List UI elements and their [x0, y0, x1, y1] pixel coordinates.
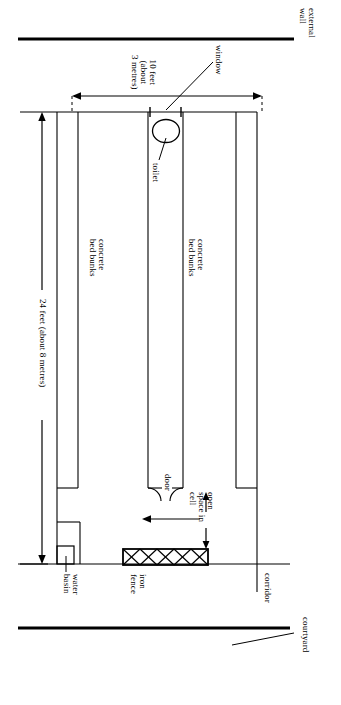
- label-iron-fence: iron fence: [129, 574, 147, 594]
- label-courtyard: courtyard: [301, 617, 310, 652]
- label-toilet: toilet: [151, 163, 160, 182]
- open-space-arrow-down-head: [203, 541, 210, 549]
- label-bed-bunks-right: concrete bed bunks: [187, 239, 205, 277]
- iron-fence-hatch: [123, 549, 208, 565]
- open-space-arrow-horizontal-head: [142, 515, 151, 522]
- window-leader-line: [166, 62, 213, 110]
- label-door: door: [163, 474, 172, 491]
- label-window: window: [214, 45, 223, 75]
- length-dim-arrow-bottom: [38, 555, 45, 564]
- floor-plan-drawing: [0, 0, 341, 705]
- label-length-dimension: 24 feet (about 8 metres): [38, 299, 47, 387]
- width-dim-arrow-left: [72, 92, 81, 99]
- length-dim-arrow-top: [38, 112, 45, 121]
- door-swing-arc-left: [148, 488, 161, 501]
- label-open-space: open space in cell: [187, 492, 215, 522]
- prison-cell-floor-plan: external wall window 10 feet (about 3 me…: [0, 0, 341, 705]
- label-water-basin: water basin: [62, 574, 80, 595]
- label-corridor: corridor: [263, 573, 272, 603]
- label-external-wall: external wall: [298, 8, 316, 38]
- label-width-dimension: 10 feet (about 3 metres): [129, 55, 157, 90]
- courtyard-leader-line: [232, 633, 294, 645]
- label-bed-bunks-left: concrete bed bunks: [88, 239, 106, 277]
- width-dim-arrow-right: [253, 92, 262, 99]
